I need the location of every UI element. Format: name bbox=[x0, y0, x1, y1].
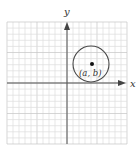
y-axis-arrow-icon bbox=[64, 22, 70, 30]
y-axis-label: y bbox=[63, 6, 70, 17]
center-point-label: (a, b) bbox=[79, 68, 102, 78]
center-point bbox=[90, 62, 94, 66]
coordinate-plane-figure: x y (a, b) bbox=[0, 0, 140, 150]
x-axis-arrow-icon bbox=[118, 80, 126, 86]
x-axis-label: x bbox=[130, 78, 136, 89]
